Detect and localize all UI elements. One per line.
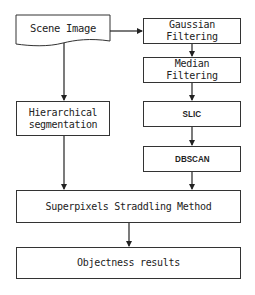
- hierarchical-segmentation-node: Hierarchical segmentation: [16, 101, 110, 136]
- objectness-results-node: Objectness results: [16, 247, 241, 279]
- dbscan-label: DBSCAN: [175, 153, 210, 165]
- slic-label: SLIC: [183, 108, 201, 120]
- gaussian-filtering-node: Gaussian Filtering: [143, 18, 241, 44]
- median-filtering-node: Median Filtering: [143, 57, 241, 83]
- dbscan-node: DBSCAN: [143, 146, 241, 172]
- slic-node: SLIC: [143, 101, 241, 127]
- scene-image-label: Scene Image: [16, 15, 110, 41]
- superpixels-straddling-node: Superpixels Straddling Method: [16, 190, 241, 223]
